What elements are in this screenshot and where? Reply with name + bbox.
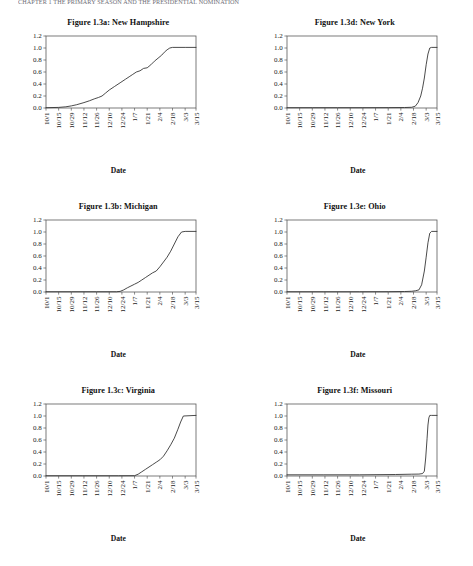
- x-tick-label: 11/26: [93, 480, 101, 496]
- panel-title: Figure 1.3a: New Hampshire: [0, 18, 237, 27]
- x-tick-label: 12/24: [359, 296, 367, 312]
- x-axis-title: Date: [237, 166, 473, 175]
- x-tick-label: 10/15: [296, 480, 304, 496]
- x-tick-label: 10/15: [296, 296, 304, 312]
- x-tick-label: 1/7: [372, 296, 380, 305]
- x-tick-label: 10/15: [55, 112, 63, 128]
- y-tick-label: 0.0: [274, 288, 283, 296]
- plot-frame: [46, 36, 196, 108]
- x-tick-label: 10/1: [43, 296, 51, 309]
- series-line: [287, 415, 437, 474]
- x-tick-label: 2/4: [397, 480, 405, 489]
- y-tick-label: 0.8: [33, 424, 42, 432]
- y-tick-label: 1.2: [274, 32, 283, 40]
- plot-area: 0.00.20.40.60.81.01.210/110/1510/2911/12…: [261, 32, 439, 128]
- panel-title: Figure 1.3f: Missouri: [237, 386, 473, 395]
- figure-panel-grid: Figure 1.3a: New Hampshire 0.00.20.40.60…: [0, 14, 473, 566]
- x-tick-label: 1/21: [384, 112, 392, 125]
- x-tick-label: 2/18: [169, 112, 177, 125]
- x-tick-label: 1/7: [372, 112, 380, 121]
- x-tick-label: 3/15: [193, 480, 201, 493]
- x-tick-label: 11/26: [93, 296, 101, 312]
- x-tick-label: 12/24: [119, 112, 127, 128]
- y-tick-label: 1.0: [33, 412, 42, 420]
- x-tick-label: 11/12: [321, 296, 329, 312]
- x-tick-label: 1/7: [372, 480, 380, 489]
- line-chart-svg: 0.00.20.40.60.81.01.210/110/1510/2911/12…: [20, 32, 198, 128]
- x-tick-label: 11/26: [93, 112, 101, 128]
- x-tick-label: 3/15: [433, 296, 441, 309]
- x-tick-label: 1/7: [131, 112, 139, 121]
- x-tick-label: 2/18: [410, 480, 418, 493]
- y-tick-label: 0.6: [274, 436, 283, 444]
- y-tick-label: 0.8: [274, 424, 283, 432]
- y-tick-label: 0.4: [274, 448, 283, 456]
- y-tick-label: 0.6: [274, 252, 283, 260]
- panel-title: Figure 1.3e: Ohio: [237, 202, 473, 211]
- plot-frame: [46, 220, 196, 292]
- x-tick-label: 3/3: [422, 112, 430, 121]
- x-tick-label: 2/4: [397, 112, 405, 121]
- x-tick-label: 2/18: [410, 296, 418, 309]
- x-tick-label: 10/29: [308, 112, 316, 128]
- x-tick-label: 10/29: [308, 296, 316, 312]
- x-tick-label: 2/4: [156, 480, 164, 489]
- y-tick-label: 1.2: [274, 216, 283, 224]
- x-tick-label: 10/29: [68, 296, 76, 312]
- y-tick-label: 0.6: [33, 436, 42, 444]
- panel-title: Figure 1.3b: Michigan: [0, 202, 237, 211]
- x-tick-label: 10/1: [283, 480, 291, 493]
- series-line: [287, 231, 437, 291]
- x-tick-label: 3/3: [182, 112, 190, 121]
- y-tick-label: 0.4: [33, 264, 42, 272]
- figure-panel-f: Figure 1.3f: Missouri 0.00.20.40.60.81.0…: [237, 382, 473, 566]
- x-axis-title: Date: [0, 534, 237, 543]
- x-tick-label: 12/10: [106, 296, 114, 312]
- x-tick-label: 12/10: [346, 296, 354, 312]
- x-tick-label: 12/10: [346, 112, 354, 128]
- figure-panel-b: Figure 1.3b: Michigan 0.00.20.40.60.81.0…: [0, 198, 237, 382]
- line-chart-svg: 0.00.20.40.60.81.01.210/110/1510/2911/12…: [20, 216, 198, 312]
- x-tick-label: 12/24: [359, 112, 367, 128]
- y-tick-label: 0.8: [274, 56, 283, 64]
- x-tick-label: 1/7: [131, 480, 139, 489]
- x-axis-title: Date: [237, 350, 473, 359]
- x-tick-label: 3/15: [433, 480, 441, 493]
- x-tick-label: 1/21: [144, 480, 152, 493]
- x-tick-label: 12/10: [106, 112, 114, 128]
- x-tick-label: 2/4: [397, 296, 405, 305]
- figure-panel-d: Figure 1.3d: New York 0.00.20.40.60.81.0…: [237, 14, 473, 198]
- plot-frame: [287, 36, 437, 108]
- y-tick-label: 0.8: [274, 240, 283, 248]
- y-tick-label: 0.6: [33, 68, 42, 76]
- x-tick-label: 12/24: [359, 480, 367, 496]
- x-tick-label: 12/10: [346, 480, 354, 496]
- x-tick-label: 2/4: [156, 112, 164, 121]
- line-chart-svg: 0.00.20.40.60.81.01.210/110/1510/2911/12…: [261, 216, 439, 312]
- x-tick-label: 12/10: [106, 480, 114, 496]
- line-chart-svg: 0.00.20.40.60.81.01.210/110/1510/2911/12…: [261, 32, 439, 128]
- x-tick-label: 2/4: [156, 296, 164, 305]
- x-tick-label: 2/18: [410, 112, 418, 125]
- figure-panel-a: Figure 1.3a: New Hampshire 0.00.20.40.60…: [0, 14, 237, 198]
- x-tick-label: 11/12: [321, 480, 329, 496]
- y-tick-label: 1.0: [33, 228, 42, 236]
- plot-frame: [287, 404, 437, 476]
- x-tick-label: 3/15: [433, 112, 441, 125]
- x-tick-label: 3/3: [422, 296, 430, 305]
- y-tick-label: 0.4: [274, 264, 283, 272]
- x-tick-label: 10/15: [296, 112, 304, 128]
- x-axis-title: Date: [0, 166, 237, 175]
- y-tick-label: 0.2: [33, 460, 42, 468]
- plot-area: 0.00.20.40.60.81.01.210/110/1510/2911/12…: [20, 400, 198, 496]
- y-tick-label: 0.8: [33, 56, 42, 64]
- plot-area: 0.00.20.40.60.81.01.210/110/1510/2911/12…: [261, 400, 439, 496]
- x-tick-label: 10/1: [283, 296, 291, 309]
- y-tick-label: 0.4: [33, 80, 42, 88]
- y-tick-label: 0.8: [33, 240, 42, 248]
- figure-panel-e: Figure 1.3e: Ohio 0.00.20.40.60.81.01.21…: [237, 198, 473, 382]
- x-tick-label: 1/21: [384, 480, 392, 493]
- panel-title: Figure 1.3c: Virginia: [0, 386, 237, 395]
- x-tick-label: 3/3: [182, 480, 190, 489]
- plot-area: 0.00.20.40.60.81.01.210/110/1510/2911/12…: [20, 216, 198, 312]
